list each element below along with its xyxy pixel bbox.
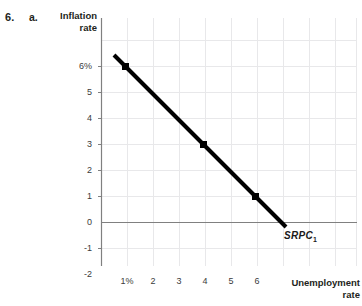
data-point-marker bbox=[200, 141, 207, 148]
y-tick-label: 6% bbox=[62, 62, 92, 71]
grid-horizontal bbox=[101, 41, 357, 249]
y-tick-label: 1 bbox=[62, 192, 92, 201]
y-tick-label: 2 bbox=[62, 166, 92, 175]
grid-vertical bbox=[128, 18, 357, 266]
data-point-marker bbox=[122, 63, 129, 70]
srpc-curve-label: SRPC1 bbox=[284, 230, 317, 243]
phillips-curve-figure: 6. a. Inflation rate Unemployment rate bbox=[0, 0, 362, 306]
x-tick-label: 3 bbox=[166, 277, 192, 286]
srpc-curve-label-subscript: 1 bbox=[313, 236, 317, 243]
y-tick-marks bbox=[98, 67, 101, 249]
x-tick-label: 6 bbox=[244, 277, 270, 286]
y-tick-label: 4 bbox=[62, 114, 92, 123]
y-tick-label: 5 bbox=[62, 88, 92, 97]
chart-svg bbox=[0, 0, 362, 306]
y-tick-label: 0 bbox=[62, 218, 92, 227]
y-tick-label: 3 bbox=[62, 140, 92, 149]
data-point-marker bbox=[252, 193, 259, 200]
x-tick-label: 2 bbox=[140, 277, 166, 286]
y-tick-label: -1 bbox=[62, 244, 92, 253]
x-tick-label: 1% bbox=[114, 277, 140, 286]
x-tick-label: 4 bbox=[192, 277, 218, 286]
plot-canvas bbox=[0, 0, 362, 306]
y-tick-label: -2 bbox=[62, 270, 92, 279]
srpc-curve-label-text: SRPC bbox=[284, 230, 313, 241]
x-tick-label: 5 bbox=[218, 277, 244, 286]
